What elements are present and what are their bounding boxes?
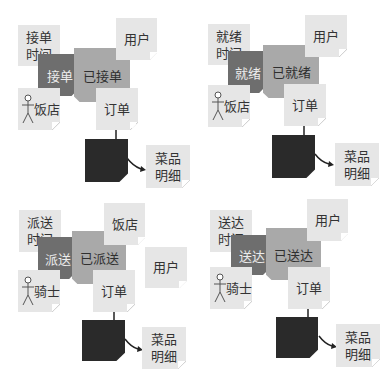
party-note: 用户 bbox=[116, 18, 157, 60]
order-note: 订单 bbox=[96, 88, 138, 130]
order-note-label: 订单 bbox=[104, 101, 130, 118]
state-label: 已送达 bbox=[274, 245, 313, 264]
order-note-label: 订单 bbox=[101, 283, 127, 300]
detail-note: 菜品 明细 bbox=[336, 324, 380, 367]
actor-note: 骑士 bbox=[18, 270, 60, 312]
party-note-label: 用户 bbox=[313, 28, 339, 45]
action-label: 就绪 bbox=[235, 63, 261, 82]
action-label: 派送 bbox=[45, 249, 71, 268]
stick-figure-icon bbox=[22, 276, 34, 306]
detail-note: 菜品 明细 bbox=[335, 143, 379, 186]
party-note: 用户 bbox=[305, 15, 347, 57]
party-note-label: 饭店 bbox=[112, 216, 138, 233]
order-note: 订单 bbox=[93, 270, 135, 312]
panel-ready: 就绪 时间 就绪 已就绪 用户 饭店 订单 菜品 明细 bbox=[195, 0, 390, 190]
panel-accept: 接单 时间 接单 已接单 用户 饭店 订单 菜品 明细 bbox=[0, 0, 195, 190]
state-label: 已接单 bbox=[83, 66, 122, 85]
panel-dispatch: 派送 时间 派送 已派送 饭店 用户 骑士 订单 菜品 明细 bbox=[0, 190, 195, 379]
actor-note: 饭店 bbox=[208, 85, 250, 127]
actor-note-label: 骑士 bbox=[226, 280, 252, 297]
detail-note: 菜品 明细 bbox=[146, 145, 190, 188]
order-note: 订单 bbox=[288, 267, 330, 309]
party-note: 用户 bbox=[307, 199, 348, 241]
actor-note-label: 骑士 bbox=[34, 283, 60, 300]
stick-figure-icon bbox=[22, 94, 34, 124]
detail-box bbox=[82, 320, 125, 361]
detail-box bbox=[85, 139, 128, 182]
order-note: 订单 bbox=[284, 84, 326, 126]
party-note: 饭店 bbox=[104, 203, 145, 245]
state-label: 已派送 bbox=[80, 248, 119, 267]
detail-note: 菜品 明细 bbox=[142, 327, 186, 369]
stick-figure-icon bbox=[214, 273, 226, 303]
order-note-label: 订单 bbox=[292, 97, 318, 114]
action-label: 接单 bbox=[47, 66, 73, 85]
detail-box bbox=[276, 317, 318, 358]
actor-note: 饭店 bbox=[18, 88, 60, 130]
action-label: 送达 bbox=[239, 246, 265, 265]
detail-note-label: 菜品 明细 bbox=[345, 329, 371, 363]
actor-note-label: 饭店 bbox=[34, 101, 60, 118]
detail-note-label: 菜品 明细 bbox=[155, 150, 181, 184]
actor-note: 骑士 bbox=[210, 267, 252, 309]
state-label: 已就绪 bbox=[272, 62, 311, 81]
extra-note-label: 用户 bbox=[153, 259, 179, 276]
detail-note-label: 菜品 明细 bbox=[151, 331, 177, 365]
party-note-label: 用户 bbox=[124, 31, 150, 48]
detail-box bbox=[272, 135, 315, 178]
stick-figure-icon bbox=[212, 91, 224, 121]
actor-note-label: 饭店 bbox=[224, 98, 250, 115]
extra-note: 用户 bbox=[145, 247, 187, 288]
party-note-label: 用户 bbox=[315, 212, 341, 229]
panel-delivered: 送达 时间 送达 已送达 用户 骑士 订单 菜品 明细 bbox=[195, 190, 390, 379]
detail-note-label: 菜品 明细 bbox=[344, 148, 370, 182]
order-note-label: 订单 bbox=[296, 280, 322, 297]
